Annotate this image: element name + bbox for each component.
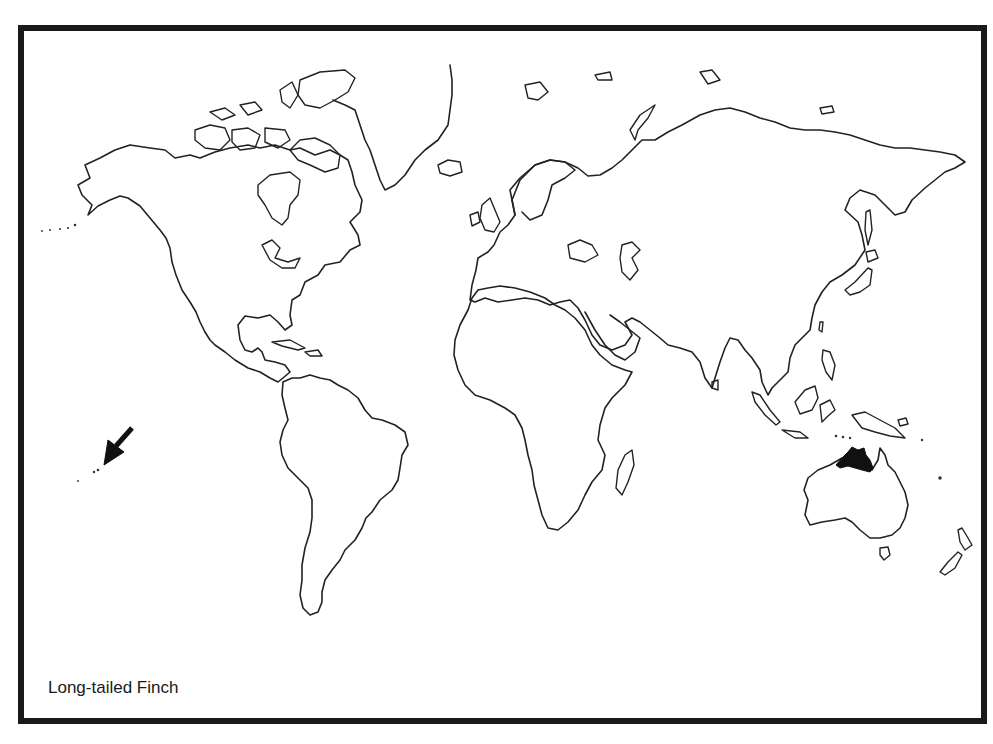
island-dot	[93, 471, 95, 473]
island-dot	[921, 439, 923, 441]
species-range-highlight	[836, 447, 873, 472]
island-dot	[849, 437, 851, 439]
south-america-coast	[280, 375, 408, 615]
philippines	[822, 350, 835, 380]
great-lakes	[262, 240, 300, 268]
new-siberian-islands	[820, 106, 834, 114]
arctic-island	[210, 108, 235, 120]
hispaniola	[305, 350, 322, 356]
madagascar	[616, 450, 634, 495]
svalbard	[525, 82, 548, 100]
severnaya-zemlya	[700, 70, 720, 84]
new-zealand-north	[958, 528, 972, 550]
cuba	[272, 340, 305, 350]
arrow-down-left-icon	[104, 428, 132, 465]
great-britain	[480, 198, 500, 232]
black-sea	[568, 240, 598, 262]
island-dot	[74, 224, 77, 227]
hudson-bay	[258, 172, 300, 225]
iceland	[438, 160, 462, 176]
honshu	[845, 268, 872, 295]
eurasia-coast	[470, 108, 965, 395]
new-zealand-south	[940, 552, 962, 575]
hokkaido	[866, 250, 878, 262]
north-america-coast	[78, 145, 362, 382]
franz-josef-land	[595, 72, 612, 80]
sulawesi	[820, 400, 835, 422]
scandinavia-coast	[512, 160, 575, 220]
ellesmere-island	[298, 70, 355, 108]
taiwan	[819, 322, 823, 332]
new-britain	[898, 418, 908, 426]
novaya-zemlya	[630, 105, 655, 140]
island-dot	[97, 469, 100, 472]
island-dot	[842, 436, 845, 439]
arctic-island	[232, 128, 260, 150]
java	[782, 430, 808, 438]
map-title: Long-tailed Finch	[48, 678, 178, 698]
world-map	[0, 0, 993, 744]
africa-coast	[454, 286, 632, 530]
island-dot	[835, 435, 838, 438]
caspian-sea	[620, 242, 640, 280]
sakhalin	[865, 210, 872, 245]
island-dot	[938, 476, 942, 480]
ireland	[470, 212, 480, 226]
island-dot	[41, 230, 43, 232]
island-dot	[49, 229, 51, 231]
island-dot	[59, 228, 61, 230]
tasmania	[880, 547, 890, 560]
borneo	[795, 386, 818, 414]
new-guinea	[852, 412, 905, 438]
arctic-island	[195, 125, 230, 150]
greenland-coast	[333, 65, 452, 190]
island-dot	[67, 227, 69, 229]
arctic-island	[240, 102, 262, 115]
sumatra	[752, 392, 780, 425]
island-dot	[77, 480, 79, 482]
arctic-island	[280, 82, 298, 108]
